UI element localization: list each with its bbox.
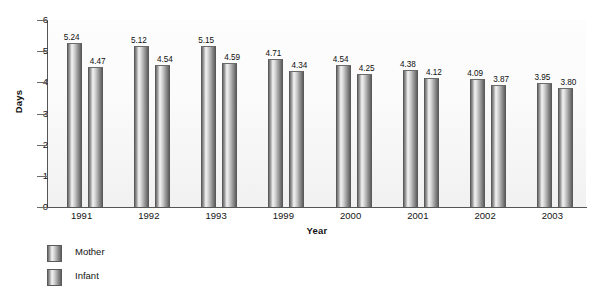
bar-mother-1993[interactable]: 5.15 xyxy=(201,46,216,208)
y-axis-tick: 3 xyxy=(0,114,48,115)
y-axis-tick: 1 xyxy=(0,176,48,177)
x-axis-tick-label: 2001 xyxy=(383,210,453,221)
bar-value-label: 4.59 xyxy=(224,53,240,63)
y-axis-tick: 0 xyxy=(0,207,48,208)
x-axis-title: Year xyxy=(48,225,586,236)
bar-value-label: 3.80 xyxy=(560,78,576,88)
bar-chart-figure: Days 0123456 5.244.475.124.545.154.594.7… xyxy=(0,0,615,292)
bar-infant-2000[interactable]: 4.25 xyxy=(357,74,372,207)
bar-infant-1991[interactable]: 4.47 xyxy=(88,67,103,207)
bar-group: 3.953.80 xyxy=(537,20,571,207)
bar-group: 4.544.25 xyxy=(336,20,370,207)
y-axis-tick: 2 xyxy=(0,145,48,146)
x-axis-line xyxy=(47,207,587,208)
x-axis-tick-label: 1999 xyxy=(248,210,318,221)
y-axis-tick-mark xyxy=(37,51,48,52)
y-axis-tick-mark xyxy=(37,145,48,146)
bar-infant-1999[interactable]: 4.34 xyxy=(289,71,304,207)
bar-group: 4.093.87 xyxy=(470,20,504,207)
bar-value-label: 5.24 xyxy=(64,33,80,43)
x-axis-tick-label: 2002 xyxy=(450,210,520,221)
y-axis-tick: 6 xyxy=(0,20,48,21)
legend-swatch xyxy=(47,245,62,262)
bar-mother-2003[interactable]: 3.95 xyxy=(537,83,552,207)
bar-infant-1993[interactable]: 4.59 xyxy=(222,63,237,207)
bar-value-label: 4.54 xyxy=(157,55,173,65)
x-axis-tick-label: 2000 xyxy=(316,210,386,221)
bar-infant-1992[interactable]: 4.54 xyxy=(155,65,170,207)
bar-value-label: 5.15 xyxy=(198,36,214,46)
x-axis-tick-label: 1993 xyxy=(181,210,251,221)
bar-infant-2001[interactable]: 4.12 xyxy=(424,78,439,207)
bar-mother-2001[interactable]: 4.38 xyxy=(403,70,418,208)
x-axis-tick-label: 1992 xyxy=(114,210,184,221)
bar-mother-1992[interactable]: 5.12 xyxy=(134,46,149,207)
legend-label: Infant xyxy=(75,270,99,281)
bar-infant-2002[interactable]: 3.87 xyxy=(491,85,506,207)
bar-value-label: 4.09 xyxy=(467,69,483,79)
bar-group: 4.384.12 xyxy=(403,20,437,207)
bar-group: 4.714.34 xyxy=(268,20,302,207)
bar-value-label: 3.95 xyxy=(534,73,550,83)
legend-label: Mother xyxy=(75,246,105,257)
bar-group: 5.244.47 xyxy=(67,20,101,207)
bar-mother-2002[interactable]: 4.09 xyxy=(470,79,485,207)
y-axis-tick: 5 xyxy=(0,51,48,52)
y-axis-tick: 4 xyxy=(0,82,48,83)
bar-group: 5.154.59 xyxy=(201,20,235,207)
legend-swatch xyxy=(47,269,62,286)
x-axis-tick-label: 2003 xyxy=(517,210,587,221)
bar-group: 5.124.54 xyxy=(134,20,168,207)
bar-value-label: 4.47 xyxy=(90,57,106,67)
bar-value-label: 4.12 xyxy=(426,68,442,78)
y-axis-tick-mark xyxy=(37,176,48,177)
bar-infant-2003[interactable]: 3.80 xyxy=(558,88,573,207)
bar-mother-2000[interactable]: 4.54 xyxy=(336,65,351,207)
bar-value-label: 4.54 xyxy=(333,55,349,65)
y-axis-tick-mark xyxy=(37,114,48,115)
bar-value-label: 3.87 xyxy=(493,75,509,85)
bar-mother-1991[interactable]: 5.24 xyxy=(67,43,82,207)
x-axis-tick-label: 1991 xyxy=(47,210,117,221)
bar-value-label: 4.38 xyxy=(400,60,416,70)
bar-value-label: 4.34 xyxy=(291,61,307,71)
bar-mother-1999[interactable]: 4.71 xyxy=(268,59,283,207)
bar-value-label: 4.25 xyxy=(359,64,375,74)
y-axis-tick-mark xyxy=(37,82,48,83)
y-axis-tick-mark xyxy=(37,20,48,21)
bar-value-label: 5.12 xyxy=(131,36,147,46)
plot-area: 5.244.475.124.545.154.594.714.344.544.25… xyxy=(48,20,586,207)
y-axis-title: Days xyxy=(13,72,24,132)
bar-value-label: 4.71 xyxy=(265,49,281,59)
